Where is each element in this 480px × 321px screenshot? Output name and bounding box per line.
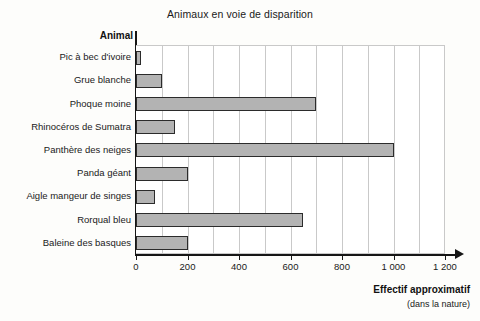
bar	[136, 167, 188, 181]
bar-row	[136, 232, 445, 255]
bar	[136, 236, 188, 250]
y-axis-tick-label: Rorqual bleu	[77, 208, 131, 231]
x-axis-tick	[239, 254, 240, 260]
bar-series	[136, 46, 444, 253]
chart-title: Animaux en voie de disparition	[0, 8, 480, 20]
y-axis-tick-label: Panda géant	[77, 161, 131, 184]
x-axis-tick	[445, 254, 446, 260]
bar	[136, 74, 162, 88]
plot-area	[136, 45, 445, 254]
x-axis-tick-label: 1 200	[415, 261, 475, 272]
bar-row	[136, 185, 445, 208]
x-axis-line	[135, 254, 460, 256]
y-axis-tick-labels: Pic à bec d'ivoireGrue blanchePhoque moi…	[0, 45, 131, 254]
y-axis-tick-label: Phoque moine	[70, 91, 131, 114]
x-axis-tick	[394, 254, 395, 260]
x-axis-title: Effectif approximatif	[373, 284, 470, 295]
y-axis-tick-label: Aigle mangeur de singes	[26, 184, 131, 207]
bar-row	[136, 46, 445, 69]
x-axis-tick	[188, 254, 189, 260]
bar-row	[136, 69, 445, 92]
y-axis-tick-label: Pic à bec d'ivoire	[59, 45, 131, 68]
x-axis-arrow-icon	[455, 249, 464, 259]
y-axis-tick-label: Panthère des neiges	[44, 138, 131, 161]
bar-row	[136, 116, 445, 139]
x-axis-tick	[291, 254, 292, 260]
bar-row	[136, 209, 445, 232]
bar-row	[136, 92, 445, 115]
bar	[136, 143, 394, 157]
x-axis-tick	[342, 254, 343, 260]
y-axis-tick-label: Baleine des basques	[43, 231, 131, 254]
y-axis-tick-label: Grue blanche	[74, 68, 131, 91]
x-axis-tick	[136, 254, 137, 260]
bar-chart: Animaux en voie de disparition Animal Pi…	[0, 0, 480, 321]
bar	[136, 97, 316, 111]
y-axis-tick-label: Rhinocéros de Sumatra	[31, 115, 131, 138]
x-axis-subtitle: (dans la nature)	[407, 299, 470, 309]
bar	[136, 51, 141, 65]
y-axis-title-container: Animal	[0, 30, 133, 44]
bar	[136, 213, 303, 227]
bar-row	[136, 162, 445, 185]
bar	[136, 190, 155, 204]
bar	[136, 120, 175, 134]
bar-row	[136, 139, 445, 162]
y-axis-title: Animal	[0, 30, 133, 41]
